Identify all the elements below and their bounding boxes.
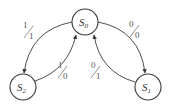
state-s0: S0: [72, 9, 98, 35]
label-s1-to-s0: 0 1: [91, 60, 101, 81]
label-s1-to-s0-output: 1: [96, 71, 101, 81]
state-s2: S2: [10, 74, 36, 100]
label-s0-to-s1: 0 0: [129, 19, 140, 40]
label-s2-to-s0-input: 1: [58, 60, 63, 70]
edge-s0-to-s2: [24, 22, 72, 73]
label-s1-to-s0-input: 0: [91, 60, 96, 70]
label-s0-to-s2-input: 1: [23, 20, 28, 30]
label-s2-to-s0-output: 0: [63, 71, 68, 81]
state-s1-subscript: 1: [148, 87, 152, 95]
label-s0-to-s2: 1 1: [23, 20, 34, 41]
label-s0-to-s1-output: 0: [135, 30, 140, 40]
edge-s2-to-s0: [35, 35, 76, 81]
label-s0-to-s2-output: 1: [29, 31, 34, 41]
label-s0-to-s1-input: 0: [129, 19, 134, 29]
state-s2-subscript: 2: [23, 87, 27, 95]
state-diagram: S0 S1 S2 1 1 1 0 0 0 0 1: [0, 0, 169, 107]
state-s1: S1: [135, 74, 161, 100]
state-s0-subscript: 0: [85, 22, 89, 30]
